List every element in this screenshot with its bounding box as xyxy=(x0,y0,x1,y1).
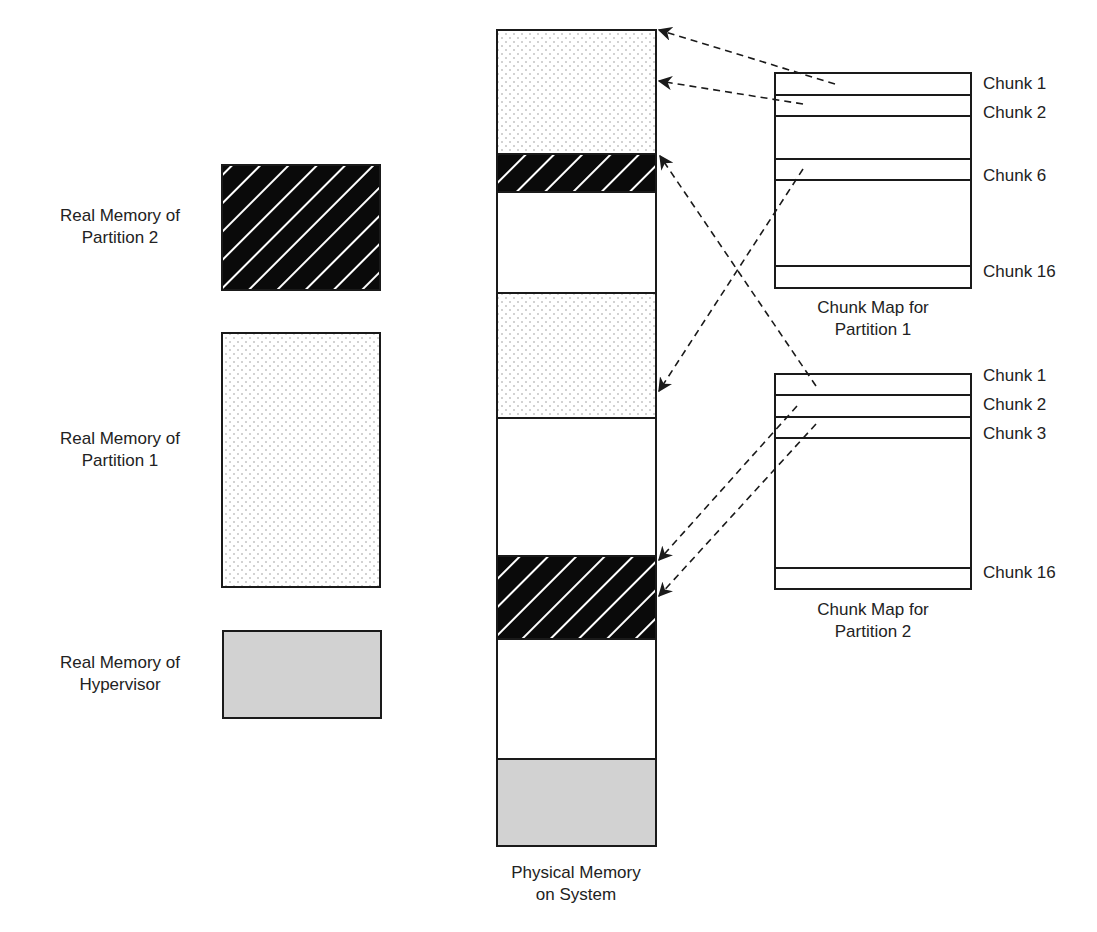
phys-segment-partition1-a xyxy=(497,30,656,154)
phys-segment-partition1-b xyxy=(497,293,656,418)
partition1-real-memory-box xyxy=(222,333,380,587)
chunk-map-2-caption: Chunk Map for Partition 2 xyxy=(773,599,973,643)
chunk-map-1-caption: Chunk Map for Partition 1 xyxy=(773,297,973,341)
phys-segment-partition2-b xyxy=(497,556,656,639)
phys-segment-hypervisor xyxy=(497,759,656,846)
chunk-map-partition2 xyxy=(775,374,971,589)
partition1-label: Real Memory of Partition 1 xyxy=(20,428,220,472)
phys-segment-free-b xyxy=(497,418,656,556)
physical-memory-column xyxy=(497,30,656,846)
chunk-map-partition1 xyxy=(775,73,971,288)
arrow-p1-chunk1 xyxy=(659,30,835,84)
physical-memory-caption: Physical Memory on System xyxy=(476,862,676,906)
hypervisor-real-memory-box xyxy=(223,631,381,718)
chunk-label-p1-6: Chunk 6 xyxy=(983,166,1046,186)
chunk-label-p1-2: Chunk 2 xyxy=(983,103,1046,123)
chunk-label-p2-3: Chunk 3 xyxy=(983,424,1046,444)
chunk-label-p2-16: Chunk 16 xyxy=(983,563,1056,583)
partition2-label: Real Memory of Partition 2 xyxy=(20,205,220,249)
hypervisor-label: Real Memory of Hypervisor xyxy=(20,652,220,696)
phys-segment-partition2-a xyxy=(497,154,656,192)
chunk-label-p1-1: Chunk 1 xyxy=(983,74,1046,94)
chunk-label-p1-16: Chunk 16 xyxy=(983,262,1056,282)
phys-segment-free-c xyxy=(497,639,656,759)
chunk-label-p2-2: Chunk 2 xyxy=(983,395,1046,415)
chunk-label-p2-1: Chunk 1 xyxy=(983,366,1046,386)
partition2-real-memory-box xyxy=(222,165,380,290)
phys-segment-free-a xyxy=(497,192,656,293)
